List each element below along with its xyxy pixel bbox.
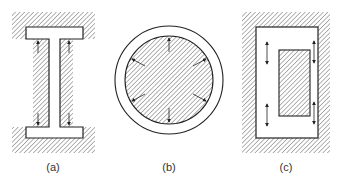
panel-c-label: (c): [280, 161, 293, 173]
panel-b-label: (b): [162, 161, 175, 173]
panel-b-disc: [115, 26, 223, 134]
panel-c-cavity: [242, 12, 330, 153]
panel-a-i-beam: [12, 12, 95, 153]
panel-a-label: (a): [46, 161, 59, 173]
diagram-canvas: [0, 0, 345, 182]
